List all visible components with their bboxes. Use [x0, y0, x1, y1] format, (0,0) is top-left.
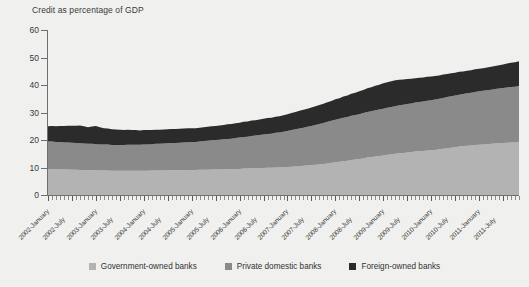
x-tick-mark-minor — [467, 196, 468, 200]
x-tick-mark-minor — [172, 196, 173, 200]
legend-item[interactable]: Private domestic banks — [225, 262, 322, 271]
x-tick-mark-minor — [379, 196, 380, 200]
legend-swatch-icon — [225, 263, 232, 270]
x-tick-mark-minor — [112, 196, 113, 200]
x-tick-mark-minor — [451, 196, 452, 200]
x-tick-mark-minor — [519, 196, 520, 200]
x-tick-label: 2002-July — [41, 216, 66, 241]
x-tick-mark-minor — [124, 196, 125, 200]
x-tick-mark-minor — [323, 196, 324, 200]
x-tick-mark-major — [192, 196, 193, 201]
x-tick-mark-minor — [327, 196, 328, 200]
x-tick-mark-minor — [339, 196, 340, 200]
x-tick-mark-minor — [212, 196, 213, 200]
x-tick-mark-minor — [224, 196, 225, 200]
x-tick-mark-minor — [272, 196, 273, 200]
x-tick-mark-minor — [367, 196, 368, 200]
x-tick-mark-minor — [228, 196, 229, 200]
x-tick-mark-minor — [491, 196, 492, 200]
x-tick-mark-minor — [347, 196, 348, 200]
x-tick-label: 2006-July — [232, 216, 257, 241]
x-tick-label: 2008-July — [328, 216, 353, 241]
x-tick-mark-major — [311, 196, 312, 201]
x-tick-mark-minor — [280, 196, 281, 200]
y-tick-mark — [41, 30, 47, 31]
y-tick-mark — [41, 140, 47, 141]
x-tick-mark-minor — [56, 196, 57, 200]
x-tick-mark-minor — [220, 196, 221, 200]
x-tick-label: 2004-July — [137, 216, 162, 241]
legend-label: Foreign-owned banks — [361, 262, 440, 271]
x-tick-mark-minor — [180, 196, 181, 200]
x-tick-mark-minor — [443, 196, 444, 200]
x-tick-mark-minor — [471, 196, 472, 200]
y-tick-label: 50 — [0, 53, 39, 63]
y-tick-mark — [41, 85, 47, 86]
x-tick-mark-minor — [515, 196, 516, 200]
y-tick-label: 0 — [0, 190, 39, 200]
x-tick-mark-minor — [447, 196, 448, 200]
x-tick-mark-major — [48, 196, 49, 201]
x-tick-mark-major — [383, 196, 384, 201]
x-tick-mark-minor — [459, 196, 460, 200]
x-tick-mark-minor — [100, 196, 101, 200]
x-tick-mark-minor — [487, 196, 488, 200]
legend-label: Government-owned banks — [101, 262, 197, 271]
x-tick-mark-major — [168, 196, 169, 201]
x-tick-mark-minor — [343, 196, 344, 200]
x-tick-mark-minor — [164, 196, 165, 200]
x-tick-mark-major — [72, 196, 73, 201]
x-tick-mark-minor — [371, 196, 372, 200]
x-tick-mark-minor — [307, 196, 308, 200]
x-tick-mark-minor — [84, 196, 85, 200]
x-tick-mark-minor — [411, 196, 412, 200]
x-tick-mark-minor — [132, 196, 133, 200]
x-tick-mark-minor — [268, 196, 269, 200]
x-tick-mark-minor — [128, 196, 129, 200]
x-tick-mark-minor — [88, 196, 89, 200]
legend-swatch-icon — [89, 263, 96, 270]
x-tick-label: 2009-July — [376, 216, 401, 241]
x-tick-mark-minor — [136, 196, 137, 200]
x-tick-mark-minor — [232, 196, 233, 200]
x-tick-mark-minor — [351, 196, 352, 200]
chart-title: Credit as percentage of GDP — [32, 5, 144, 15]
x-tick-mark-minor — [160, 196, 161, 200]
x-tick-mark-major — [335, 196, 336, 201]
x-tick-mark-minor — [499, 196, 500, 200]
x-tick-mark-minor — [208, 196, 209, 200]
x-tick-mark-minor — [68, 196, 69, 200]
x-tick-mark-major — [455, 196, 456, 201]
x-tick-mark-minor — [148, 196, 149, 200]
x-tick-label: 2005-July — [185, 216, 210, 241]
x-tick-mark-minor — [319, 196, 320, 200]
y-tick-mark — [41, 195, 47, 196]
legend-item[interactable]: Government-owned banks — [89, 262, 197, 271]
x-tick-mark-minor — [184, 196, 185, 200]
x-tick-mark-minor — [295, 196, 296, 200]
x-tick-mark-minor — [256, 196, 257, 200]
x-tick-mark-minor — [140, 196, 141, 200]
plot-area — [48, 30, 519, 195]
x-tick-mark-minor — [495, 196, 496, 200]
y-tick-mark — [41, 58, 47, 59]
x-tick-mark-major — [144, 196, 145, 201]
x-tick-mark-minor — [244, 196, 245, 200]
x-tick-mark-major — [431, 196, 432, 201]
x-tick-mark-minor — [331, 196, 332, 200]
x-tick-label: 2003-July — [89, 216, 114, 241]
x-tick-mark-minor — [403, 196, 404, 200]
y-tick-label: 30 — [0, 108, 39, 118]
x-tick-mark-minor — [363, 196, 364, 200]
x-tick-label: 2007-July — [280, 216, 305, 241]
x-tick-mark-minor — [116, 196, 117, 200]
x-tick-mark-minor — [299, 196, 300, 200]
x-tick-mark-minor — [439, 196, 440, 200]
legend-item[interactable]: Foreign-owned banks — [349, 262, 440, 271]
y-tick-label: 20 — [0, 135, 39, 145]
legend-swatch-icon — [349, 263, 356, 270]
x-tick-mark-minor — [108, 196, 109, 200]
y-tick-label: 40 — [0, 80, 39, 90]
x-tick-mark-minor — [236, 196, 237, 200]
chart-legend: Government-owned banksPrivate domestic b… — [0, 262, 529, 271]
